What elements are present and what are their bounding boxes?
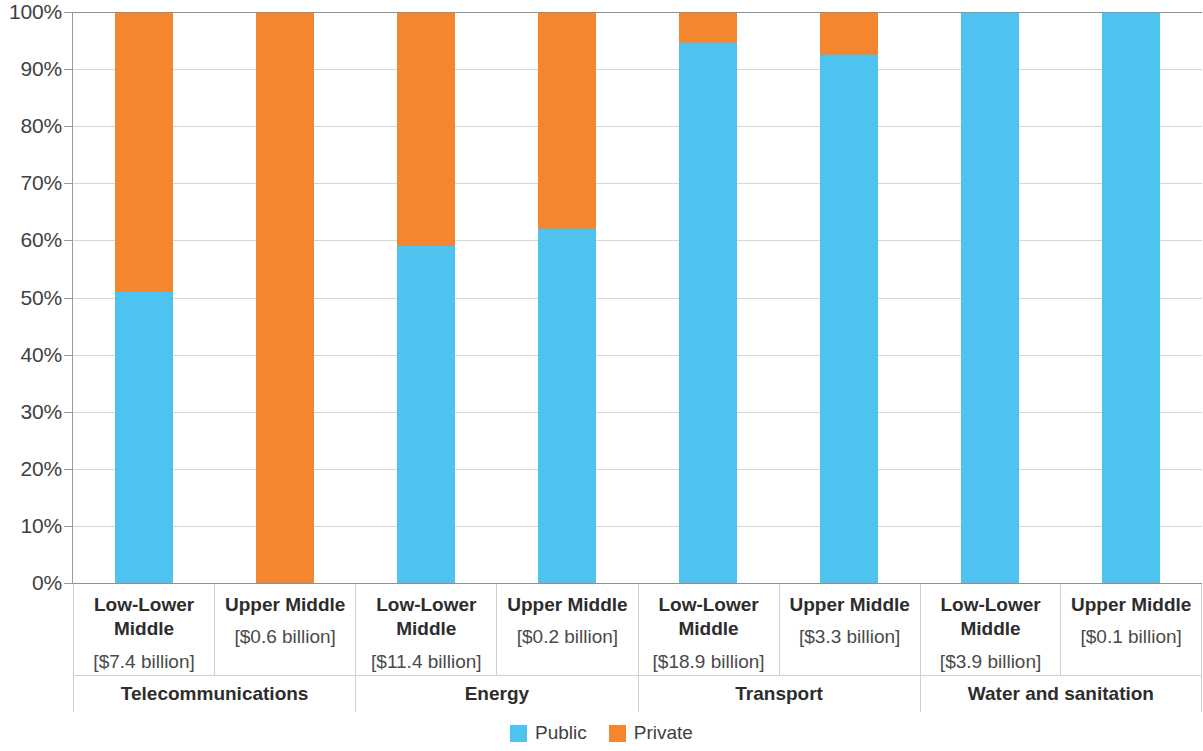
subgroup-amount: [$7.4 billion] xyxy=(93,651,194,673)
y-axis-tick-label: 20% xyxy=(21,457,62,481)
group-label: Transport xyxy=(735,683,823,705)
legend-swatch-icon xyxy=(510,725,527,742)
group-name-row: Energy xyxy=(356,675,637,712)
category-group-2: Low-Lower Middle[$18.9 billion]Upper Mid… xyxy=(638,584,920,712)
subgroup-amount: [$0.6 billion] xyxy=(234,626,335,648)
subgroup-row: Low-Lower Middle[$11.4 billion]Upper Mid… xyxy=(356,584,637,675)
bar-5 xyxy=(820,12,878,583)
subgroup-row: Low-Lower Middle[$3.9 billion]Upper Midd… xyxy=(921,584,1201,675)
y-axis-tick-mark xyxy=(64,126,73,127)
y-axis-tick-mark xyxy=(64,298,73,299)
subgroup-label: Upper Middle xyxy=(790,593,910,617)
legend-label: Public xyxy=(535,722,587,744)
subgroup-amount: [$0.1 billion] xyxy=(1080,626,1181,648)
bar-segment-public xyxy=(1102,12,1160,583)
group-name-row: Telecommunications xyxy=(74,675,355,712)
group-name-row: Water and sanitation xyxy=(921,675,1201,712)
bar-segment-private xyxy=(679,12,737,43)
y-axis-tick-mark xyxy=(64,526,73,527)
subgroup-amount: [$11.4 billion] xyxy=(371,651,482,673)
gridline xyxy=(73,469,1202,470)
category-label-table: Low-Lower Middle[$7.4 billion]Upper Midd… xyxy=(73,584,1202,712)
group-label: Telecommunications xyxy=(121,683,309,705)
bar-7 xyxy=(1102,12,1160,583)
y-axis-tick-mark xyxy=(64,69,73,70)
subgroup-cell: Low-Lower Middle[$11.4 billion] xyxy=(356,584,496,675)
subgroup-amount: [$18.9 billion] xyxy=(653,651,765,673)
category-group-3: Low-Lower Middle[$3.9 billion]Upper Midd… xyxy=(920,584,1202,712)
y-axis-tick-mark xyxy=(64,583,73,584)
subgroup-amount: [$0.2 billion] xyxy=(517,626,618,648)
y-axis-tick-label: 60% xyxy=(21,228,62,252)
subgroup-cell: Upper Middle[$3.3 billion] xyxy=(779,584,920,675)
subgroup-cell: Low-Lower Middle[$3.9 billion] xyxy=(921,584,1061,675)
gridline xyxy=(73,412,1202,413)
subgroup-cell: Upper Middle[$0.6 billion] xyxy=(214,584,355,675)
y-axis-tick-mark xyxy=(64,412,73,413)
bar-segment-public xyxy=(397,246,455,583)
y-axis-tick-mark xyxy=(64,355,73,356)
subgroup-row: Low-Lower Middle[$18.9 billion]Upper Mid… xyxy=(639,584,920,675)
bar-segment-public xyxy=(820,55,878,583)
bar-segment-private xyxy=(115,12,173,292)
y-axis-tick-label: 0% xyxy=(32,571,62,595)
legend-item-public[interactable]: Public xyxy=(510,722,587,744)
y-axis-tick-label: 90% xyxy=(21,57,62,81)
y-axis-tick-mark xyxy=(64,12,73,13)
gridline xyxy=(73,526,1202,527)
category-group-0: Low-Lower Middle[$7.4 billion]Upper Midd… xyxy=(73,584,355,712)
y-axis-tick-label: 30% xyxy=(21,400,62,424)
y-axis-tick-label: 100% xyxy=(9,0,62,24)
subgroup-cell: Low-Lower Middle[$18.9 billion] xyxy=(639,584,779,675)
y-axis-tick-label: 50% xyxy=(21,286,62,310)
subgroup-label: Low-Lower Middle xyxy=(643,593,775,642)
y-axis-tick-label: 80% xyxy=(21,114,62,138)
gridline xyxy=(73,183,1202,184)
bar-6 xyxy=(961,12,1019,583)
bar-3 xyxy=(538,12,596,583)
y-axis-tick-mark xyxy=(64,240,73,241)
bar-segment-private xyxy=(820,12,878,55)
gridline xyxy=(73,126,1202,127)
group-label: Water and sanitation xyxy=(968,683,1154,705)
subgroup-cell: Upper Middle[$0.2 billion] xyxy=(496,584,637,675)
chart-legend: PublicPrivate xyxy=(0,722,1203,744)
subgroup-cell: Low-Lower Middle[$7.4 billion] xyxy=(74,584,214,675)
bar-segment-public xyxy=(679,43,737,583)
bar-segment-private xyxy=(397,12,455,246)
subgroup-label: Low-Lower Middle xyxy=(78,593,210,642)
legend-item-private[interactable]: Private xyxy=(609,722,693,744)
y-axis-tick-mark xyxy=(64,469,73,470)
plot-area xyxy=(73,12,1202,583)
plot-top-border xyxy=(72,12,1202,13)
subgroup-row: Low-Lower Middle[$7.4 billion]Upper Midd… xyxy=(74,584,355,675)
group-name-row: Transport xyxy=(639,675,920,712)
bar-segment-public xyxy=(538,229,596,583)
y-axis-tick-label: 10% xyxy=(21,514,62,538)
subgroup-cell: Upper Middle[$0.1 billion] xyxy=(1060,584,1201,675)
bar-segment-private xyxy=(538,12,596,229)
gridline xyxy=(73,69,1202,70)
y-axis: 100%90%80%70%60%50%40%30%20%10%0% xyxy=(0,0,72,595)
bar-2 xyxy=(397,12,455,583)
gridline xyxy=(73,298,1202,299)
gridline xyxy=(73,355,1202,356)
subgroup-label: Upper Middle xyxy=(1071,593,1191,617)
legend-swatch-icon xyxy=(609,725,626,742)
bar-0 xyxy=(115,12,173,583)
y-axis-tick-label: 40% xyxy=(21,343,62,367)
group-label: Energy xyxy=(465,683,529,705)
category-group-1: Low-Lower Middle[$11.4 billion]Upper Mid… xyxy=(355,584,637,712)
subgroup-label: Upper Middle xyxy=(507,593,627,617)
stacked-bar-chart: 100%90%80%70%60%50%40%30%20%10%0% Low-Lo… xyxy=(0,0,1203,751)
subgroup-label: Low-Lower Middle xyxy=(925,593,1057,642)
legend-label: Private xyxy=(634,722,693,744)
y-axis-tick-mark xyxy=(64,183,73,184)
subgroup-label: Low-Lower Middle xyxy=(360,593,492,642)
gridline xyxy=(73,240,1202,241)
bar-1 xyxy=(256,12,314,583)
subgroup-label: Upper Middle xyxy=(225,593,345,617)
subgroup-amount: [$3.9 billion] xyxy=(940,651,1041,673)
y-axis-tick-label: 70% xyxy=(21,171,62,195)
bar-4 xyxy=(679,12,737,583)
